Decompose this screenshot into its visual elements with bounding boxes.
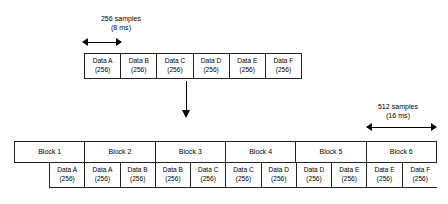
block-label: Block 2: [109, 148, 132, 157]
data-cell-name: Data A: [93, 166, 113, 175]
data-cell-name: Data E: [374, 166, 394, 175]
data-cell-name: Data D: [201, 57, 222, 66]
data-cell-count: (256): [203, 66, 218, 75]
block-label: Block 3: [179, 148, 202, 157]
data-cell: Data D (256): [262, 163, 297, 187]
data-cell-name: Data C: [233, 166, 254, 175]
diagram-canvas: 256 samples (8 ms) Data A (256) Data B (…: [0, 0, 448, 204]
data-cell-count: (256): [59, 175, 74, 184]
data-cell: Data B (256): [156, 163, 191, 187]
data-cell-count: (256): [95, 175, 110, 184]
data-cell-name: Data D: [268, 166, 289, 175]
arrow-shaft: [86, 42, 118, 43]
data-cell: Data B (256): [121, 54, 157, 78]
data-cell-name: Data E: [339, 166, 359, 175]
data-cell-name: Data F: [274, 57, 294, 66]
data-cell-name: Data D: [304, 166, 325, 175]
arrow-shaft: [186, 81, 187, 111]
data-cell: Data D (256): [194, 54, 230, 78]
data-cell: Data A (256): [85, 54, 121, 78]
data-cell-count: (256): [413, 175, 428, 184]
block-label: Block 6: [390, 148, 413, 157]
block-label: Block 4: [249, 148, 272, 157]
data-cell: Data A (256): [50, 163, 85, 187]
data-cell: Data C (256): [226, 163, 261, 187]
data-cell: Data E (256): [367, 163, 402, 187]
top-duration-caption: 256 samples (8 ms): [78, 14, 164, 32]
data-cell-name: Data B: [163, 166, 183, 175]
block-row: Block 1 Block 2 Block 3 Block 4 Block 5 …: [14, 141, 437, 163]
flow-down-arrow-icon: [182, 81, 191, 118]
bottom-caption-line2: (16 ms): [352, 111, 444, 120]
input-data-strip: Data A (256) Data B (256) Data C (256) D…: [84, 53, 302, 79]
block-cell: Block 2: [85, 142, 155, 162]
data-cell: Data F (256): [403, 163, 438, 187]
top-caption-line2: (8 ms): [78, 23, 164, 32]
data-cell-name: Data C: [198, 166, 219, 175]
data-cell-name: Data A: [93, 57, 113, 66]
data-cell: Data A (256): [85, 163, 120, 187]
data-cell: Data D (256): [297, 163, 332, 187]
data-cell-count: (256): [271, 175, 286, 184]
data-cell-name: Data C: [165, 57, 186, 66]
data-cell-name: Data A: [57, 166, 77, 175]
arrow-head-right-icon: [431, 123, 437, 131]
data-cell-count: (256): [342, 175, 357, 184]
data-cell-name: Data B: [129, 57, 149, 66]
data-cell-count: (256): [240, 66, 255, 75]
block-cell: Block 4: [226, 142, 296, 162]
data-cell-count: (256): [236, 175, 251, 184]
data-cell: Data E (256): [332, 163, 367, 187]
bottom-span-double-arrow-icon: [366, 123, 437, 132]
data-cell: Data C (256): [157, 54, 193, 78]
data-cell-count: (256): [377, 175, 392, 184]
data-cell: Data F (256): [266, 54, 301, 78]
data-cell-count: (256): [200, 175, 215, 184]
data-cell-count: (256): [130, 175, 145, 184]
overlapped-data-row: Data A (256) Data A (256) Data B (256) D…: [49, 162, 437, 188]
block-label: Block 5: [319, 148, 342, 157]
data-cell-count: (256): [131, 66, 146, 75]
data-cell: Data B (256): [121, 163, 156, 187]
data-cell: Data E (256): [230, 54, 266, 78]
arrow-head-right-icon: [116, 38, 122, 46]
block-cell: Block 3: [156, 142, 226, 162]
arrow-head-down-icon: [182, 110, 190, 118]
data-cell-name: Data F: [410, 166, 430, 175]
data-cell-count: (256): [165, 175, 180, 184]
top-span-double-arrow-icon: [82, 38, 122, 47]
data-cell-count: (256): [167, 66, 182, 75]
data-cell-name: Data B: [128, 166, 148, 175]
data-cell-count: (256): [95, 66, 110, 75]
block-cell: Block 1: [15, 142, 85, 162]
data-cell-count: (256): [276, 66, 291, 75]
data-cell-count: (256): [306, 175, 321, 184]
bottom-duration-caption: 512 samples (16 ms): [352, 102, 444, 120]
block-cell: Block 5: [296, 142, 366, 162]
top-caption-line1: 256 samples: [78, 14, 164, 23]
block-cell: Block 6: [367, 142, 436, 162]
data-cell: Data C (256): [191, 163, 226, 187]
arrow-shaft: [370, 127, 433, 128]
data-cell-name: Data E: [237, 57, 257, 66]
bottom-caption-line1: 512 samples: [352, 102, 444, 111]
block-label: Block 1: [38, 148, 61, 157]
